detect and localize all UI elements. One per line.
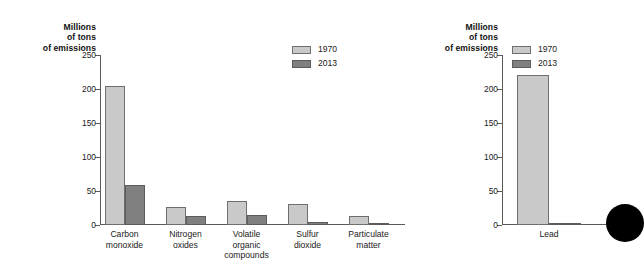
bar-2013 <box>247 215 267 225</box>
legend-swatch-1970-icon <box>512 46 531 54</box>
y-axis-tick-label: 150 <box>82 119 96 127</box>
legend-swatch-2013-icon <box>292 60 311 68</box>
bar-2013 <box>549 223 581 225</box>
y-axis-title-left: Millions of tons of emissions <box>18 22 96 53</box>
bar-1970 <box>227 201 247 225</box>
y-axis-tick-label: 100 <box>484 153 498 161</box>
y-axis-tick-label: 50 <box>489 187 498 195</box>
bar-2013 <box>125 185 145 225</box>
bar-1970 <box>517 75 549 225</box>
legend-item-1970: 1970 <box>292 44 337 55</box>
legend-item-2013: 2013 <box>292 58 337 69</box>
bar-1970 <box>288 204 308 225</box>
plot-area-left: 050100150200250 Carbon monoxideNitrogen … <box>100 55 405 225</box>
bar-2013 <box>186 216 206 225</box>
legend-swatch-1970-icon <box>292 46 311 54</box>
y-axis-line-left <box>100 55 101 225</box>
y-axis-title-right: Millions of tons of emissions <box>420 22 498 53</box>
legend-item-2013: 2013 <box>512 58 557 69</box>
legend-label-2013: 2013 <box>538 59 557 68</box>
panel-criteria-pollutants: Millions of tons of emissions 0501001502… <box>0 0 420 271</box>
bar-2013 <box>308 222 328 225</box>
y-axis-tick-label: 0 <box>91 221 96 229</box>
legend-label-1970: 1970 <box>538 45 557 54</box>
bar-1970 <box>105 86 125 225</box>
y-axis-tick-label: 250 <box>82 51 96 59</box>
y-axis-tick-label: 250 <box>484 51 498 59</box>
legend-swatch-2013-icon <box>512 60 531 68</box>
panel-lead: Millions of tons of emissions 0501001502… <box>420 0 626 271</box>
legend-right: 1970 2013 <box>512 44 557 72</box>
y-axis-tick-label: 150 <box>484 119 498 127</box>
bar-1970 <box>349 216 369 225</box>
y-axis-tick-label: 200 <box>484 85 498 93</box>
bar-2013 <box>369 223 389 225</box>
y-axis-tick-label: 100 <box>82 153 96 161</box>
x-axis-category-label: Particulate matter <box>325 229 412 250</box>
bar-1970 <box>166 207 186 225</box>
plot-area-right: 050100150200250 Lead <box>502 55 612 225</box>
y-axis-line-right <box>502 55 503 225</box>
y-axis-tick-label: 50 <box>87 187 96 195</box>
legend-label-2013: 2013 <box>318 59 337 68</box>
y-axis-tick-label: 0 <box>493 221 498 229</box>
page-edge-dot-icon <box>606 204 644 242</box>
legend-label-1970: 1970 <box>318 45 337 54</box>
legend-item-1970: 1970 <box>512 44 557 55</box>
legend-left: 1970 2013 <box>292 44 337 72</box>
x-axis-category-label: Lead <box>481 229 617 240</box>
y-axis-tick-label: 200 <box>82 85 96 93</box>
